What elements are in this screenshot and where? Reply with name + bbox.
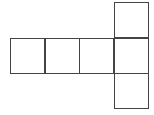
row-square-1 (10, 38, 45, 74)
row-square-4 (114, 38, 149, 74)
row-square-2 (45, 38, 80, 74)
top-square (114, 2, 149, 38)
bottom-square (114, 73, 149, 109)
row-square-3 (79, 38, 114, 74)
cube-net-diagram (0, 0, 154, 115)
